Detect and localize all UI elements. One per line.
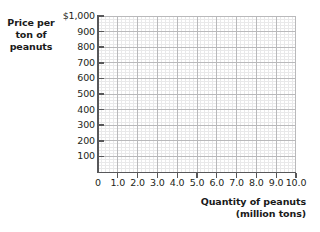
y-axis-tick-label: $1,000 bbox=[38, 11, 95, 21]
peanut-price-quantity-chart: Price per ton of peanuts $1,000900800700… bbox=[0, 0, 320, 232]
y-axis-tick bbox=[99, 140, 104, 142]
plot-area bbox=[98, 16, 296, 172]
y-axis-tick-label: 200 bbox=[38, 136, 95, 146]
y-axis-tick-label: 100 bbox=[38, 151, 95, 161]
y-axis-tick-label: 700 bbox=[38, 58, 95, 68]
x-axis-tick-label: 3.0 bbox=[150, 178, 165, 188]
grid bbox=[98, 16, 296, 172]
y-axis-tick-label: 400 bbox=[38, 105, 95, 115]
y-axis-tick bbox=[99, 31, 104, 33]
x-axis-tick-label: 1.0 bbox=[110, 178, 125, 188]
y-axis-tick-labels: $1,000900800700600500400300200100 bbox=[38, 0, 95, 232]
y-axis-tick bbox=[99, 124, 104, 126]
y-axis-tick bbox=[99, 78, 104, 80]
x-axis-tick-label: 5.0 bbox=[190, 178, 205, 188]
y-axis-tick bbox=[99, 156, 104, 158]
x-axis-tick-label: 0 bbox=[95, 178, 101, 188]
y-axis-tick bbox=[99, 93, 104, 95]
x-axis-title: Quantity of peanuts (million tons) bbox=[150, 196, 306, 220]
x-axis-tick-label: 7.0 bbox=[229, 178, 244, 188]
x-axis-tick-label: 10.0 bbox=[286, 178, 307, 188]
x-axis-tick-label: 8.0 bbox=[249, 178, 264, 188]
x-axis-tick-label: 2.0 bbox=[130, 178, 145, 188]
y-axis-tick-label: 600 bbox=[38, 73, 95, 83]
x-axis-tick-label: 6.0 bbox=[209, 178, 224, 188]
y-axis-tick-label: 800 bbox=[38, 42, 95, 52]
x-axis-tick-label: 9.0 bbox=[269, 178, 284, 188]
y-axis-tick bbox=[99, 109, 104, 111]
y-axis-tick-label: 900 bbox=[38, 27, 95, 37]
y-axis-tick-label: 500 bbox=[38, 89, 95, 99]
y-axis-tick bbox=[99, 46, 104, 48]
x-axis-tick-label: 4.0 bbox=[170, 178, 185, 188]
x-axis-title-line-2: (million tons) bbox=[150, 208, 306, 220]
x-axis-title-line-1: Quantity of peanuts bbox=[150, 196, 306, 208]
y-axis-tick bbox=[99, 62, 104, 64]
y-axis-tick-label: 300 bbox=[38, 120, 95, 130]
y-axis-tick bbox=[99, 15, 104, 17]
